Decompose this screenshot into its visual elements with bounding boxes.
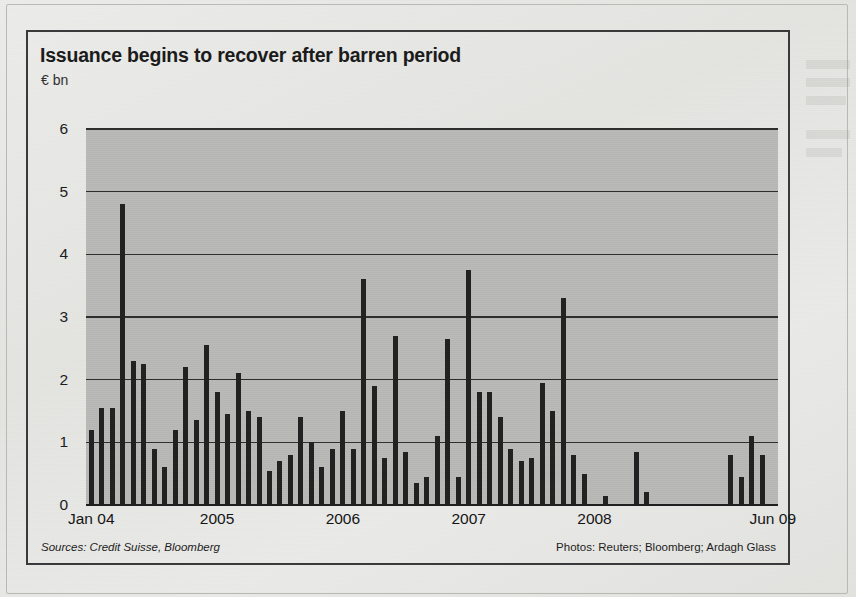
- x-axis-tick-label: Jun 09: [749, 510, 796, 528]
- ghost-text-block: [806, 60, 850, 69]
- y-axis-tick-label: 2: [59, 371, 68, 389]
- x-axis-line: [86, 504, 778, 506]
- ghost-text-block: [806, 148, 842, 157]
- bar: [99, 408, 104, 505]
- bar: [257, 417, 262, 505]
- ghost-text-block: [806, 78, 850, 87]
- x-axis-tick-label: Jan 04: [68, 510, 115, 528]
- x-axis-labels: Jan 042005200620072008Jun 09: [86, 510, 778, 534]
- plot-area: [86, 129, 778, 505]
- chart-unit-label: € bn: [41, 72, 68, 88]
- bar: [309, 442, 314, 505]
- bar: [456, 477, 461, 505]
- bar: [582, 474, 587, 505]
- bar: [131, 361, 136, 505]
- bar: [183, 367, 188, 505]
- bar-series: [86, 129, 778, 505]
- bar: [215, 392, 220, 505]
- ghost-text-block: [806, 96, 846, 105]
- bar: [487, 392, 492, 505]
- bar: [414, 483, 419, 505]
- y-axis-tick-label: 6: [59, 120, 68, 138]
- bar: [152, 449, 157, 505]
- bar: [267, 471, 272, 505]
- ghost-text-block: [806, 130, 850, 139]
- bar: [246, 411, 251, 505]
- bar: [477, 392, 482, 505]
- y-axis-tick-label: 4: [59, 245, 68, 263]
- chart-panel: Issuance begins to recover after barren …: [26, 30, 790, 565]
- bar: [739, 477, 744, 505]
- bar: [277, 461, 282, 505]
- bar: [110, 408, 115, 505]
- bar: [749, 436, 754, 505]
- bar: [466, 270, 471, 505]
- y-axis-tick-label: 3: [59, 308, 68, 326]
- bar: [162, 467, 167, 505]
- bar: [382, 458, 387, 505]
- bar: [728, 455, 733, 505]
- bar: [340, 411, 345, 505]
- bar: [225, 414, 230, 505]
- bar: [204, 345, 209, 505]
- bar: [393, 336, 398, 505]
- bar: [550, 411, 555, 505]
- y-axis-labels: 0123456: [28, 129, 76, 505]
- bar: [120, 204, 125, 505]
- bar: [508, 449, 513, 505]
- y-axis-tick-label: 0: [59, 496, 68, 514]
- bar: [561, 298, 566, 505]
- x-axis-tick-label: 2005: [200, 510, 234, 528]
- bar: [319, 467, 324, 505]
- bar: [445, 339, 450, 505]
- bar: [760, 455, 765, 505]
- bar: [424, 477, 429, 505]
- x-axis-tick-label: 2007: [451, 510, 485, 528]
- x-axis-tick-label: 2008: [577, 510, 611, 528]
- bar: [298, 417, 303, 505]
- bar: [519, 461, 524, 505]
- bar: [540, 383, 545, 505]
- photos-credit: Photos: Reuters; Bloomberg; Ardagh Glass: [556, 541, 776, 553]
- bar: [435, 436, 440, 505]
- bar: [141, 364, 146, 505]
- bar: [498, 417, 503, 505]
- chart-title: Issuance begins to recover after barren …: [40, 44, 461, 67]
- bar: [89, 430, 94, 505]
- x-axis-tick-label: 2006: [326, 510, 360, 528]
- bar: [236, 373, 241, 505]
- bar: [529, 458, 534, 505]
- y-axis-tick-label: 5: [59, 183, 68, 201]
- bar: [372, 386, 377, 505]
- bar: [361, 279, 366, 505]
- bar: [634, 452, 639, 505]
- sources-note: Sources: Credit Suisse, Bloomberg: [41, 541, 220, 553]
- bar: [173, 430, 178, 505]
- bar: [571, 455, 576, 505]
- bar: [403, 452, 408, 505]
- y-axis-tick-label: 1: [59, 433, 68, 451]
- bar: [288, 455, 293, 505]
- bar: [330, 449, 335, 505]
- bar: [351, 449, 356, 505]
- bar: [194, 420, 199, 505]
